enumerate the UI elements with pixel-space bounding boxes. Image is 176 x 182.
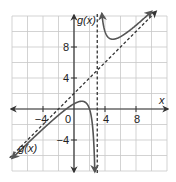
curve-label-g: g(x) — [18, 142, 37, 154]
curve-branch-left — [12, 101, 95, 172]
x-tick-label: 0 — [65, 113, 71, 125]
y-tick-label: 8 — [63, 41, 69, 53]
y-axis-label: g(x) — [77, 14, 96, 26]
y-tick-label: −4 — [56, 134, 69, 146]
x-tick-label: −4 — [35, 113, 48, 125]
x-tick-label: 8 — [134, 113, 140, 125]
x-axis-label: x — [158, 94, 165, 106]
labels: x g(x) g(x) −404884−4 — [18, 14, 165, 154]
x-tick-label: 4 — [103, 113, 109, 125]
oblique-asymptote — [10, 11, 156, 157]
y-tick-label: 4 — [63, 72, 69, 84]
curve-branch-right — [102, 11, 152, 39]
function-graph: x g(x) g(x) −404884−4 — [0, 0, 176, 182]
